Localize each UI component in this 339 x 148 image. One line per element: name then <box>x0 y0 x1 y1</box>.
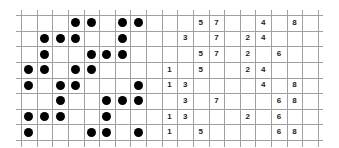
number-label: 7 <box>214 19 218 27</box>
number-label: 6 <box>277 50 281 58</box>
number-label: 6 <box>277 97 281 105</box>
dot-cell <box>84 15 100 31</box>
black-dot-icon <box>40 34 49 43</box>
number-label: 2 <box>245 34 249 42</box>
number-cell: 3 <box>177 31 193 47</box>
number-label: 1 <box>167 113 171 121</box>
number-label: 6 <box>277 128 281 136</box>
number-cell: 4 <box>255 62 271 78</box>
black-dot-icon <box>71 34 80 43</box>
dot-cell <box>99 93 115 109</box>
number-label: 2 <box>245 50 249 58</box>
dot-cell <box>37 62 53 78</box>
black-dot-icon <box>71 65 80 74</box>
dot-cell <box>37 31 53 47</box>
black-dot-icon <box>87 65 96 74</box>
dot-cell <box>52 109 68 125</box>
black-dot-icon <box>134 81 143 90</box>
black-dot-icon <box>102 50 111 59</box>
dot-cell <box>21 62 37 78</box>
number-cell: 8 <box>287 15 303 31</box>
number-cell: 6 <box>271 93 287 109</box>
number-label: 3 <box>183 81 187 89</box>
black-dot-icon <box>118 50 127 59</box>
number-cell: 8 <box>287 93 303 109</box>
black-dot-icon <box>118 34 127 43</box>
dot-cell <box>52 78 68 94</box>
dot-cell <box>68 15 84 31</box>
number-label: 1 <box>167 66 171 74</box>
number-label: 5 <box>199 66 203 74</box>
number-cell: 5 <box>193 46 209 62</box>
dot-cell <box>68 62 84 78</box>
black-dot-icon <box>118 96 127 105</box>
number-cell: 7 <box>209 15 225 31</box>
number-label: 8 <box>292 19 296 27</box>
number-cell: 7 <box>209 46 225 62</box>
number-cell: 7 <box>209 93 225 109</box>
dot-cell <box>99 46 115 62</box>
number-label: 2 <box>245 66 249 74</box>
number-label: 8 <box>292 97 296 105</box>
number-label: 3 <box>183 113 187 121</box>
number-label: 6 <box>277 113 281 121</box>
black-dot-icon <box>56 112 65 121</box>
number-cell: 1 <box>162 78 178 94</box>
number-label: 7 <box>214 34 218 42</box>
grid-line-vertical <box>318 10 319 147</box>
black-dot-icon <box>56 96 65 105</box>
number-label: 8 <box>292 128 296 136</box>
number-cell: 4 <box>255 15 271 31</box>
number-cell: 4 <box>255 31 271 47</box>
dot-cell <box>21 78 37 94</box>
dot-cell <box>84 124 100 140</box>
black-dot-icon <box>24 128 33 137</box>
number-cell: 8 <box>287 78 303 94</box>
number-cell: 8 <box>287 124 303 140</box>
dot-cell <box>37 46 53 62</box>
dot-cell <box>21 109 37 125</box>
number-cell: 4 <box>255 78 271 94</box>
black-dot-icon <box>71 81 80 90</box>
number-label: 5 <box>199 128 203 136</box>
black-dot-icon <box>71 18 80 27</box>
black-dot-icon <box>134 128 143 137</box>
number-cell: 6 <box>271 46 287 62</box>
number-label: 4 <box>261 19 265 27</box>
number-label: 3 <box>183 97 187 105</box>
dot-cell <box>130 124 146 140</box>
dot-cell <box>130 15 146 31</box>
black-dot-icon <box>102 128 111 137</box>
number-cell: 2 <box>240 62 256 78</box>
number-cell: 1 <box>162 62 178 78</box>
dot-cell <box>68 78 84 94</box>
number-label: 4 <box>261 34 265 42</box>
grid-line-horizontal <box>16 15 323 16</box>
black-dot-icon <box>134 96 143 105</box>
black-dot-icon <box>40 65 49 74</box>
dot-cell <box>130 78 146 94</box>
number-cell: 5 <box>193 15 209 31</box>
dot-cell <box>115 46 131 62</box>
black-dot-icon <box>134 18 143 27</box>
black-dot-icon <box>102 112 111 121</box>
dot-cell <box>130 93 146 109</box>
dot-cell <box>99 124 115 140</box>
number-cell: 5 <box>193 124 209 140</box>
number-cell: 3 <box>177 93 193 109</box>
number-label: 7 <box>214 97 218 105</box>
number-cell: 2 <box>240 109 256 125</box>
number-label: 7 <box>214 50 218 58</box>
number-label: 4 <box>261 81 265 89</box>
number-cell: 2 <box>240 46 256 62</box>
black-dot-icon <box>56 34 65 43</box>
black-dot-icon <box>24 112 33 121</box>
dot-cell <box>37 109 53 125</box>
black-dot-icon <box>24 81 33 90</box>
number-cell: 5 <box>193 62 209 78</box>
dot-cell <box>84 62 100 78</box>
number-cell: 1 <box>162 124 178 140</box>
black-dot-icon <box>87 50 96 59</box>
number-label: 3 <box>183 34 187 42</box>
black-dot-icon <box>87 128 96 137</box>
